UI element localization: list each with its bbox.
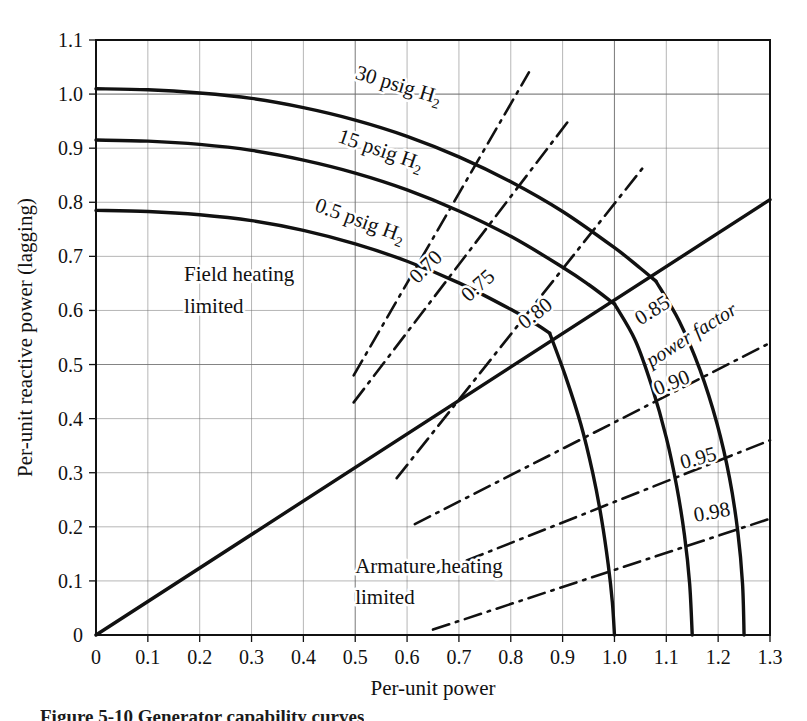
chart-annotation: limitedlimited bbox=[184, 294, 244, 318]
series-label-text: 0.70 bbox=[404, 245, 447, 288]
y-axis-tick-label: 0.8 bbox=[58, 191, 83, 213]
annotation-text: Field heating bbox=[184, 262, 295, 286]
y-axis-tick-label: 0.6 bbox=[58, 299, 83, 321]
x-axis-tick-label: 1.2 bbox=[706, 646, 731, 668]
series-label: 0.5 psig H20.5 psig H2 bbox=[311, 193, 409, 251]
y-axis-tick-label: 0.5 bbox=[58, 354, 83, 376]
series-label-text: 30 psig H2 bbox=[352, 60, 445, 112]
chart-annotation: Armature heatingArmature heating bbox=[355, 554, 503, 578]
x-axis-tick-label: 1.1 bbox=[654, 646, 679, 668]
series-label-text: 0.85 bbox=[630, 290, 674, 330]
x-axis-tick-label: 0.5 bbox=[343, 646, 368, 668]
series-label: 0.800.80 bbox=[513, 292, 557, 334]
x-axis-tick-label: 0.8 bbox=[498, 646, 523, 668]
figure-caption: Figure 5-10 Generator capability curves bbox=[40, 706, 364, 721]
x-axis-tick-label: 0.1 bbox=[135, 646, 160, 668]
y-axis-tick-label: 0.4 bbox=[58, 408, 83, 430]
series-label: 30 psig H230 psig H2 bbox=[352, 60, 445, 112]
series-label-text: 0.98 bbox=[692, 497, 732, 527]
chart-annotation: limitedlimited bbox=[355, 585, 415, 609]
x-axis-title: Per-unit power bbox=[371, 676, 496, 700]
x-axis-tick-label: 0 bbox=[91, 646, 101, 668]
y-axis-tick-label: 0.7 bbox=[58, 245, 83, 267]
x-axis-tick-label: 1.0 bbox=[602, 646, 627, 668]
y-axis-tick-label: 0.9 bbox=[58, 137, 83, 159]
y-axis-title: Per-unit reactive power (lagging) bbox=[13, 198, 37, 477]
x-axis-tick-label: 0.9 bbox=[550, 646, 575, 668]
annotation-text: limited bbox=[184, 294, 244, 318]
series-label-text: 0.90 bbox=[650, 364, 693, 400]
series-label-text: 0.80 bbox=[513, 292, 557, 334]
series-label-text: 0.5 psig H2 bbox=[311, 193, 409, 251]
x-axis-tick-label: 0.7 bbox=[446, 646, 471, 668]
y-axis-tick-label: 1.0 bbox=[58, 83, 83, 105]
y-axis-tick-label: 0.3 bbox=[58, 462, 83, 484]
series-label: 0.700.70 bbox=[404, 245, 447, 288]
chart-canvas: 00.10.20.30.40.50.60.70.80.91.01.11.21.3… bbox=[0, 0, 807, 721]
annotation-text: limited bbox=[355, 585, 415, 609]
series-curve-0 bbox=[96, 89, 656, 282]
x-axis-tick-label: 0.6 bbox=[395, 646, 420, 668]
chart-annotation: Field heatingField heating bbox=[184, 262, 295, 286]
series-curve-10 bbox=[415, 343, 770, 524]
y-axis-title-text: Per-unit reactive power (lagging) bbox=[13, 198, 37, 477]
series-label: 0.980.98 bbox=[692, 497, 732, 527]
x-axis-tick-label: 0.4 bbox=[291, 646, 316, 668]
series-label: 0.900.90 bbox=[650, 364, 693, 400]
series-label-text: 0.95 bbox=[677, 441, 719, 474]
y-axis-tick-label: 0.1 bbox=[58, 570, 83, 592]
capability-curve-figure: 00.10.20.30.40.50.60.70.80.91.01.11.21.3… bbox=[0, 0, 807, 721]
x-axis-tick-label: 0.2 bbox=[187, 646, 212, 668]
y-axis-tick-label: 0.2 bbox=[58, 516, 83, 538]
x-axis-tick-label: 0.3 bbox=[239, 646, 264, 668]
annotation-text: Armature heating bbox=[355, 554, 503, 578]
y-axis-tick-label: 1.1 bbox=[58, 29, 83, 51]
series-curve-3 bbox=[550, 333, 615, 635]
x-axis-tick-label: 1.3 bbox=[758, 646, 783, 668]
y-axis-tick-label: 0 bbox=[73, 624, 83, 646]
series-label: 0.950.95 bbox=[677, 441, 719, 474]
series-label: 0.850.85 bbox=[630, 290, 674, 330]
